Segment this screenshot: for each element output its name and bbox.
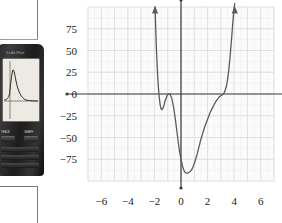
page-frame-bottom xyxy=(0,186,38,223)
y-tick-label: −50 xyxy=(60,132,77,144)
function-graph: 7550250−25−50−75 −6−4−20246 xy xyxy=(60,0,282,223)
calculator-keypad-row xyxy=(1,163,39,168)
graphing-calculator-photo: TI-83 Plus TRACE GRAPH xyxy=(0,44,44,176)
calculator-keypad-row xyxy=(1,155,39,160)
x-tick-label: −6 xyxy=(95,195,107,207)
y-tick-label: 75 xyxy=(66,23,78,35)
calculator-key-label-trace: TRACE xyxy=(1,131,10,134)
y-tick-label: 25 xyxy=(66,66,78,78)
calculator-key-trace xyxy=(1,136,15,142)
y-tick-label: 0 xyxy=(72,88,78,100)
calculator-key-label-graph: GRAPH xyxy=(24,131,33,134)
calculator-keypad-row xyxy=(1,147,39,152)
calculator-screen-graph xyxy=(3,59,39,121)
y-tick-label: −75 xyxy=(60,153,77,165)
y-tick-label: 50 xyxy=(66,45,78,57)
x-tick-label: −2 xyxy=(149,195,161,207)
page-frame-top xyxy=(0,0,38,40)
x-tick-label: −4 xyxy=(122,195,134,207)
x-axis-tick-labels: −6−4−20246 xyxy=(95,195,264,207)
x-tick-label: 0 xyxy=(178,195,184,207)
y-tick-label: −25 xyxy=(60,110,77,122)
calculator-brand-label: TI-83 Plus xyxy=(6,51,24,55)
x-tick-label: 6 xyxy=(258,195,264,207)
graph-canvas: 7550250−25−50−75 −6−4−20246 xy xyxy=(60,0,282,223)
calculator-key-graph xyxy=(24,136,38,142)
calculator-screen xyxy=(2,58,40,122)
x-tick-label: 2 xyxy=(205,195,211,207)
x-tick-label: 4 xyxy=(231,195,237,207)
